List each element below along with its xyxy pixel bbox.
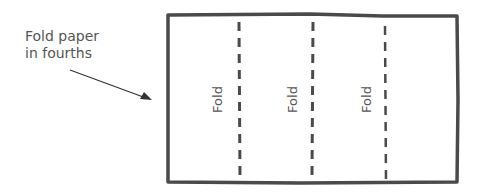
paper-diagram: [0, 0, 479, 193]
fold-label-2: Fold: [285, 86, 300, 113]
fold-label-1: Fold: [210, 86, 225, 113]
fold-line-2: [312, 22, 313, 176]
fold-line-1: [239, 22, 240, 178]
arrow-icon: [70, 70, 152, 100]
fold-label-3: Fold: [359, 86, 374, 113]
fold-line-3: [385, 26, 386, 182]
